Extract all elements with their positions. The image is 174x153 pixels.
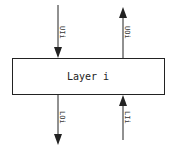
- signal-top-right-label: UOi: [123, 26, 131, 39]
- signal-top-left-label: UIi: [58, 26, 66, 39]
- signal-top-right-arrow: UOi: [119, 7, 131, 58]
- signal-bottom-right-arrow: LIi: [119, 95, 131, 140]
- signal-top-left-arrow: UIi: [54, 5, 66, 58]
- layer-box: Layer i: [13, 59, 165, 95]
- layer-diagram: Layer i UIi UOi LOi LIi: [0, 0, 174, 153]
- layer-box-label: Layer i: [67, 71, 109, 82]
- signal-bottom-left-label: LOi: [58, 111, 66, 124]
- signal-bottom-right-label: LIi: [123, 111, 131, 124]
- signal-bottom-left-arrow: LOi: [54, 95, 66, 145]
